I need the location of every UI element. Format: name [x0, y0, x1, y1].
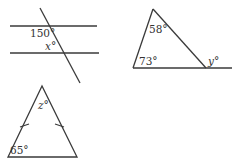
angle-label-73: 73° [139, 55, 158, 67]
angle-label-150: 150° [30, 27, 55, 39]
angle-label-z: z° [37, 99, 49, 111]
geometry-diagram: 150° x° 58° 73° y° z° 65° [0, 0, 236, 168]
equal-side-tick-right [55, 124, 64, 127]
isosceles-triangle-figure: z° 65° [8, 86, 77, 157]
exterior-angle-triangle-figure: 58° 73° y° [133, 9, 232, 68]
angle-label-65: 65° [10, 144, 29, 156]
triangle-right-side [153, 9, 206, 68]
angle-label-58: 58° [149, 23, 168, 35]
equal-side-tick-left [20, 124, 29, 127]
angle-label-x: x° [45, 40, 56, 52]
angle-label-y: y° [207, 55, 219, 67]
parallel-lines-figure: 150° x° [10, 8, 99, 83]
